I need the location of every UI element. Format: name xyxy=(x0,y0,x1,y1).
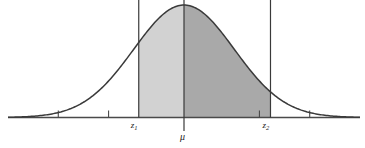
shaded-region-mu-to-z2 xyxy=(184,0,270,118)
axis-label-z1: z1 xyxy=(131,121,138,132)
normal-distribution-figure: z1 μ z2 xyxy=(0,0,365,148)
axis-label-mu: μ xyxy=(180,132,185,142)
shaded-region-z1-to-mu xyxy=(139,0,184,118)
axis-label-z2: z2 xyxy=(262,121,269,132)
axis-label-z1-subscript: 1 xyxy=(134,124,137,131)
axis-label-z2-subscript: 2 xyxy=(266,124,269,131)
distribution-chart-svg xyxy=(0,0,365,148)
